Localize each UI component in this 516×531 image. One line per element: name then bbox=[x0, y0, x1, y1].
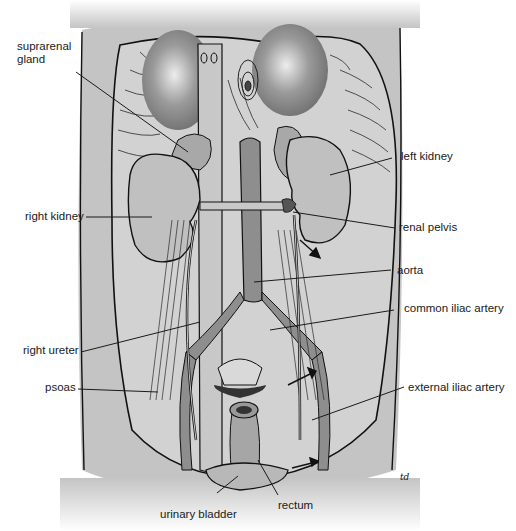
label-left-kidney: left kidney bbox=[401, 150, 453, 163]
left-diaphragm-dome bbox=[252, 24, 328, 116]
label-aorta: aorta bbox=[397, 264, 423, 277]
label-suprarenal-line2: gland bbox=[17, 53, 71, 66]
label-rectum: rectum bbox=[278, 499, 313, 512]
label-renal-pelvis: renal pelvis bbox=[399, 221, 457, 234]
label-right-ureter: right ureter bbox=[23, 344, 79, 357]
label-urinary-bladder: urinary bladder bbox=[160, 508, 237, 521]
right-kidney bbox=[128, 154, 200, 262]
label-common-iliac-artery: common iliac artery bbox=[404, 302, 504, 315]
label-suprarenal-line1: suprarenal bbox=[17, 40, 71, 53]
sacral-promontory bbox=[218, 359, 262, 385]
posterior-abdominal-wall-illustration bbox=[0, 0, 516, 531]
anatomy-figure: suprarenal gland left kidney right kidne… bbox=[0, 0, 516, 531]
label-external-iliac-artery: external iliac artery bbox=[408, 381, 505, 394]
artist-signature: td bbox=[400, 472, 409, 482]
label-suprarenal-gland: suprarenal gland bbox=[17, 40, 71, 66]
renal-vessels bbox=[200, 202, 290, 210]
label-right-kidney: right kidney bbox=[25, 210, 84, 223]
inferior-vena-cava bbox=[198, 44, 222, 472]
label-psoas: psoas bbox=[45, 381, 76, 394]
